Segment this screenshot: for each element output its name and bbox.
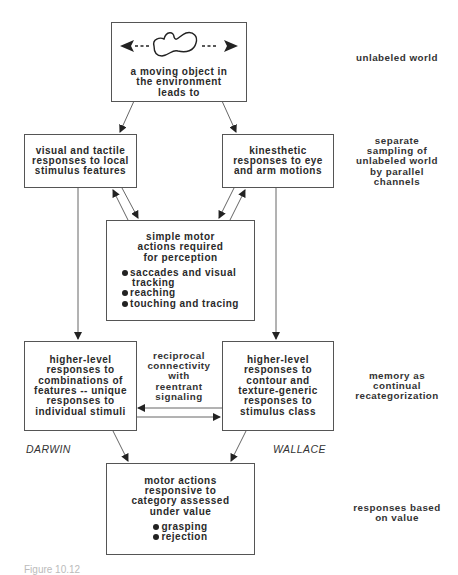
label-line: unlabeled world [344, 53, 450, 63]
box-line: under value [131, 507, 229, 517]
reentrant-signaling-label: reciprocal connectivity with reentrant s… [140, 351, 218, 402]
side-label-memory: memory as continual recategorization [344, 371, 450, 402]
box-line: category assessed [131, 496, 229, 506]
box-line: individual stimuli [34, 407, 127, 417]
label-line: recategorization [344, 391, 450, 401]
box-moving-object: a moving object in the environment leads… [111, 22, 247, 102]
box-line: stimulus features [32, 166, 129, 176]
box-kinesthetic: kinesthetic responses to eye and arm mot… [222, 134, 334, 188]
label-line: signaling [140, 392, 218, 402]
bullet-text: touching and tracing [130, 298, 239, 309]
label-line: channels [344, 177, 450, 187]
box-higher-level-right: higher-level responses to contour and te… [222, 341, 334, 431]
bullet-item: touching and tracing [122, 299, 239, 309]
side-label-responses-value: responses based on value [344, 503, 450, 523]
box-motor-actions-value: motor actions responsive to category ass… [106, 463, 255, 555]
box-line: for perception [138, 253, 224, 263]
bullet-item: rejection [153, 532, 207, 542]
bullet-icon [153, 524, 159, 530]
bullet-text: rejection [161, 531, 207, 542]
bullet-list: grasping rejection [153, 522, 207, 543]
figure-caption: Figure 10.12 [24, 564, 80, 575]
bullet-icon [122, 290, 128, 296]
box-line: stimulus class [238, 407, 318, 417]
wallace-label: WALLACE [273, 443, 326, 455]
box-line: actions required [138, 242, 224, 252]
bullet-icon [122, 301, 128, 307]
bullet-list: saccades and visual tracking reaching to… [122, 268, 239, 309]
side-label-unlabeled-world: unlabeled world [344, 53, 450, 63]
box-higher-level-left: higher-level responses to combinations o… [24, 341, 137, 431]
box-visual-tactile: visual and tactile responses to local st… [24, 134, 137, 188]
side-label-separate-sampling: separate sampling of unlabeled world by … [344, 136, 450, 187]
box-line: and arm motions [233, 166, 323, 176]
moving-blob-icon [116, 29, 242, 61]
box-line: leads to [131, 88, 228, 98]
bullet-icon [153, 534, 159, 540]
box-simple-motor-actions: simple motor actions required for percep… [106, 220, 255, 321]
label-line: on value [344, 513, 450, 523]
bullet-icon [122, 270, 128, 276]
darwin-label: DARWIN [26, 443, 71, 455]
